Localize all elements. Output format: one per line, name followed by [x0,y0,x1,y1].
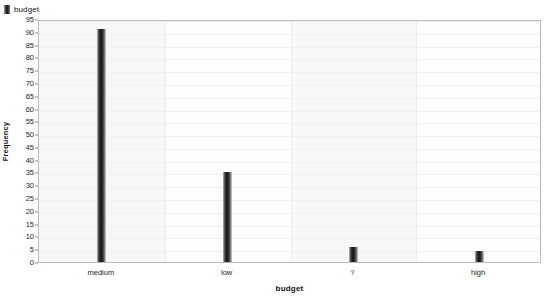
y-tick-label: 10 [26,233,34,241]
y-tick-label: 5 [30,246,34,254]
y-tick-label: 55 [26,118,34,126]
bar[interactable] [223,172,232,262]
bar[interactable] [475,251,484,263]
x-tick-label: high [471,269,485,277]
y-tick-label: 90 [26,29,34,37]
y-axis: 05101520253035404550556065707580859095 [0,20,38,263]
y-tick-label: 40 [26,157,34,165]
legend-swatch-budget [4,5,10,14]
y-tick-label: 20 [26,208,34,216]
y-tick-label: 30 [26,182,34,190]
x-axis: mediumlow?high [38,263,541,283]
x-tick-label: ? [350,269,354,277]
y-tick-label: 15 [26,221,34,229]
x-tick-label: medium [88,269,115,277]
y-tick-label: 0 [30,259,34,267]
bar[interactable] [349,247,358,262]
y-tick-label: 25 [26,195,34,203]
legend-label-budget: budget [14,5,39,14]
y-tick-label: 45 [26,144,34,152]
y-tick-label: 35 [26,169,34,177]
y-tick-label: 65 [26,93,34,101]
bar[interactable] [97,29,106,262]
y-tick-label: 80 [26,54,34,62]
y-tick-label: 70 [26,80,34,88]
x-tick-label: low [221,269,232,277]
y-tick-label: 50 [26,131,34,139]
y-tick-label: 85 [26,42,34,50]
bar-series-budget [39,21,540,262]
y-tick-label: 60 [26,106,34,114]
chart-legend: budget [4,3,39,15]
plot-area [38,20,541,263]
y-tick-label: 75 [26,67,34,75]
y-tick-label: 95 [26,16,34,24]
x-axis-title: budget [38,284,541,293]
